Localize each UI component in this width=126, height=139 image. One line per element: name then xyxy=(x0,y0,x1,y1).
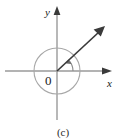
y-axis-arrowhead xyxy=(54,6,61,15)
y-axis-label: y xyxy=(44,6,50,18)
origin-label: 0 xyxy=(45,73,52,88)
figure-caption: (c) xyxy=(57,126,70,139)
coordinate-plane-diagram: y x 0 (c) xyxy=(0,0,126,139)
angle-figure: y x 0 (c) xyxy=(0,0,126,139)
terminal-ray-line xyxy=(57,32,99,71)
x-axis-label: x xyxy=(106,77,112,89)
x-axis-arrowhead xyxy=(102,68,112,75)
